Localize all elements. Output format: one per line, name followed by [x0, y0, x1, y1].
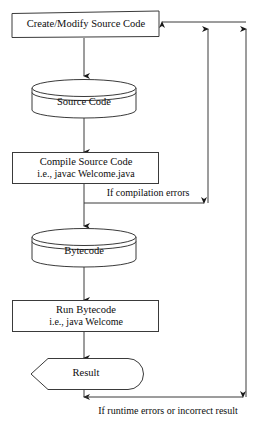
node-create-modify-source-code[interactable]: Create/Modify Source Code: [12, 11, 159, 38]
compile-label-line1: Compile Source Code: [40, 156, 133, 167]
node-compile-source-code[interactable]: Compile Source Code i.e., javac Welcome.…: [13, 153, 159, 184]
compile-label-line2: i.e., javac Welcome.java: [37, 168, 135, 179]
run-label-line2: i.e., java Welcome: [49, 316, 123, 327]
node-bytecode[interactable]: Bytecode: [32, 229, 136, 268]
flowchart-page: Create/Modify Source Code Source Code Co…: [0, 0, 256, 429]
create-modify-label: Create/Modify Source Code: [27, 18, 146, 29]
edge-runtime-errors: If runtime errors or incorrect result: [84, 397, 243, 416]
edge-compilation-errors: If compilation errors: [84, 187, 204, 203]
flowchart-canvas: Create/Modify Source Code Source Code Co…: [0, 0, 256, 429]
bytecode-cylinder-top: [32, 229, 136, 246]
source-code-cylinder-top: [32, 80, 136, 97]
bytecode-label: Bytecode: [64, 245, 104, 256]
source-code-label: Source Code: [57, 96, 111, 107]
run-label-line1: Run Bytecode: [56, 304, 116, 315]
node-result[interactable]: Result: [31, 359, 144, 390]
runtime-errors-label: If runtime errors or incorrect result: [98, 405, 238, 416]
compilation-errors-label: If compilation errors: [107, 187, 190, 198]
node-run-bytecode[interactable]: Run Bytecode i.e., java Welcome: [13, 301, 159, 332]
result-label: Result: [73, 367, 100, 378]
node-source-code[interactable]: Source Code: [32, 80, 136, 119]
